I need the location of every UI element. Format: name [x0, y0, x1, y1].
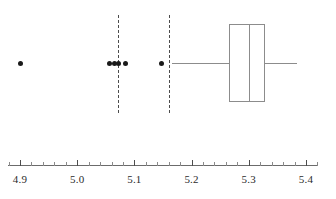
axis-tick-minor	[100, 162, 101, 166]
axis-tick-major	[306, 160, 307, 166]
axis-tick-minor	[157, 162, 158, 166]
axis-tick-minor	[123, 162, 124, 166]
median-line	[249, 24, 250, 102]
outlier-point	[116, 61, 121, 66]
axis-tick-minor	[9, 162, 10, 166]
axis-tick-minor	[317, 162, 318, 166]
box-iqr	[229, 24, 264, 102]
outlier-point	[159, 61, 164, 66]
axis-tick-major	[77, 160, 78, 166]
axis-tick-minor	[237, 162, 238, 166]
axis-tick-label: 5.4	[299, 173, 313, 185]
axis-tick-minor	[54, 162, 55, 166]
axis-tick-major	[192, 160, 193, 166]
axis-tick-minor	[272, 162, 273, 166]
outlier-point	[123, 61, 128, 66]
axis-tick-major	[134, 160, 135, 166]
axis-tick-minor	[89, 162, 90, 166]
axis-tick-major	[249, 160, 250, 166]
axis-tick-minor	[203, 162, 204, 166]
reference-line-upper-fence	[169, 15, 170, 113]
whisker-lower	[172, 63, 230, 64]
axis-tick-minor	[260, 162, 261, 166]
axis-tick-minor	[66, 162, 67, 166]
axis-tick-minor	[214, 162, 215, 166]
axis-tick-minor	[43, 162, 44, 166]
outlier-point	[18, 61, 23, 66]
axis-tick-label: 5.2	[184, 173, 198, 185]
x-axis: 4.95.05.15.25.35.4	[0, 150, 336, 199]
axis-tick-minor	[31, 162, 32, 166]
boxplot-figure: 4.95.05.15.25.35.4	[0, 0, 336, 199]
axis-tick-minor	[146, 162, 147, 166]
axis-tick-major	[20, 160, 21, 166]
axis-tick-label: 5.0	[70, 173, 84, 185]
axis-tick-minor	[112, 162, 113, 166]
axis-tick-minor	[180, 162, 181, 166]
axis-tick-minor	[283, 162, 284, 166]
whisker-upper	[265, 63, 298, 64]
axis-tick-label: 4.9	[13, 173, 27, 185]
axis-tick-minor	[169, 162, 170, 166]
axis-tick-label: 5.1	[127, 173, 141, 185]
axis-tick-minor	[295, 162, 296, 166]
axis-tick-minor	[226, 162, 227, 166]
axis-tick-label: 5.3	[242, 173, 256, 185]
plot-area	[0, 0, 336, 150]
